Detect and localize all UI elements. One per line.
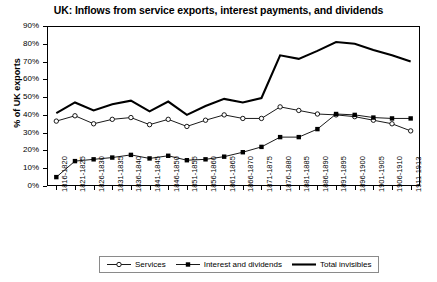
x-tick-mark (392, 186, 393, 190)
x-tick-mark (94, 186, 95, 190)
series-line-total-invisibles (56, 42, 410, 115)
data-point-marker (315, 127, 319, 131)
legend-label: Services (135, 260, 166, 269)
chart-legend: ServicesInterest and dividendsTotal invi… (99, 256, 379, 273)
data-point-marker (390, 122, 394, 126)
data-point-marker (110, 155, 114, 159)
x-tick-mark (261, 186, 262, 190)
data-point-marker (315, 112, 319, 116)
y-tick-label: 50% (9, 92, 39, 101)
data-point-marker (166, 154, 170, 158)
data-point-marker (371, 115, 375, 119)
data-point-marker (278, 105, 282, 109)
x-tick-mark (56, 186, 57, 190)
x-tick-mark (373, 186, 374, 190)
legend-item-total-invisibles[interactable]: Total invisibles (291, 260, 372, 269)
x-tick-mark (112, 186, 113, 190)
x-tick-mark (355, 186, 356, 190)
data-point-marker (73, 159, 77, 163)
x-tick-mark (317, 186, 318, 190)
data-point-marker (222, 154, 226, 158)
x-tick-mark (75, 186, 76, 190)
data-point-marker (259, 116, 263, 120)
x-tick-mark (243, 186, 244, 190)
y-tick-label: 0% (9, 181, 39, 190)
legend-item-interest-and-dividends[interactable]: Interest and dividends (175, 260, 282, 269)
data-point-marker (334, 112, 338, 116)
x-tick-mark (411, 186, 412, 190)
y-tick-label: 80% (9, 39, 39, 48)
data-point-marker (203, 157, 207, 161)
x-tick-mark (187, 186, 188, 190)
data-point-marker (54, 119, 58, 123)
data-point-marker (147, 156, 151, 160)
y-tick-label: 60% (9, 74, 39, 83)
data-point-marker (91, 122, 95, 126)
y-tick-label: 40% (9, 110, 39, 119)
x-tick-mark (150, 186, 151, 190)
y-tick-label: 90% (9, 21, 39, 30)
y-tick-label: 10% (9, 163, 39, 172)
data-point-marker (185, 124, 189, 128)
chart-title: UK: Inflows from service exports, intere… (0, 4, 437, 16)
data-point-marker (222, 113, 226, 117)
legend-swatch (106, 260, 132, 269)
data-point-marker (166, 117, 170, 121)
legend-item-services[interactable]: Services (106, 260, 166, 269)
data-point-marker (259, 145, 263, 149)
x-tick-mark (299, 186, 300, 190)
data-point-marker (241, 116, 245, 120)
data-point-marker (110, 117, 114, 121)
y-tick-mark (43, 186, 47, 187)
legend-swatch (291, 260, 317, 269)
data-point-marker (278, 135, 282, 139)
y-tick-label: 70% (9, 57, 39, 66)
x-tick-mark (206, 186, 207, 190)
data-point-marker (91, 157, 95, 161)
data-point-marker (203, 118, 207, 122)
data-point-marker (408, 129, 412, 133)
y-tick-label: 30% (9, 128, 39, 137)
series-line-interest-and-dividends (56, 114, 410, 177)
data-point-marker (241, 150, 245, 154)
x-tick-mark (168, 186, 169, 190)
x-tick-mark (131, 186, 132, 190)
data-point-marker (73, 114, 77, 118)
data-point-marker (297, 108, 301, 112)
series-line-services (56, 107, 410, 131)
x-tick-mark (224, 186, 225, 190)
data-point-marker (129, 153, 133, 157)
legend-label: Total invisibles (320, 260, 372, 269)
data-series-layer (47, 26, 420, 186)
y-tick-label: 20% (9, 145, 39, 154)
data-point-marker (147, 122, 151, 126)
data-point-marker (129, 115, 133, 119)
data-point-marker (353, 113, 357, 117)
data-point-marker (408, 116, 412, 120)
data-point-marker (390, 116, 394, 120)
legend-swatch (175, 260, 201, 269)
x-tick-mark (280, 186, 281, 190)
data-point-marker (54, 175, 58, 179)
data-point-marker (185, 158, 189, 162)
x-tick-mark (336, 186, 337, 190)
data-point-marker (297, 135, 301, 139)
legend-label: Interest and dividends (204, 260, 282, 269)
chart-container: UK: Inflows from service exports, intere… (0, 0, 437, 282)
